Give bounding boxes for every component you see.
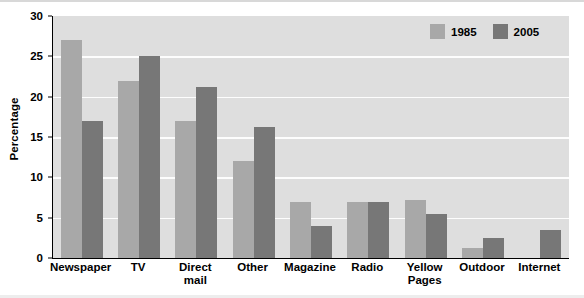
y-axis-tick-label: 5 (37, 212, 43, 224)
bar-group (405, 16, 447, 258)
bar-1985-tv (118, 81, 139, 258)
bar-1985-yellow-pages (405, 200, 426, 258)
x-axis-label-other: Other (237, 261, 268, 274)
y-axis-title-text: Percentage (7, 97, 19, 160)
bar-2005-internet (540, 230, 561, 258)
bar-chart-figure: Percentage 051015202530 NewspaperTVDirec… (0, 0, 584, 298)
bar-1985-direct-mail (175, 121, 196, 258)
bar-2005-radio (368, 202, 389, 258)
x-axis-label-yellow-pages: Yellow Pages (407, 261, 443, 287)
bar-2005-yellow-pages (426, 214, 447, 258)
bar-group (61, 16, 103, 258)
legend-label-1985: 1985 (451, 26, 477, 38)
legend: 19852005 (430, 24, 539, 39)
y-axis-tick-label: 15 (30, 131, 43, 143)
bar-1985-other (233, 161, 254, 258)
legend-swatch-1985 (430, 24, 445, 39)
x-axis-label-internet: Internet (518, 261, 560, 274)
bar-group (519, 16, 561, 258)
bar-group (347, 16, 389, 258)
bar-1985-outdoor (462, 248, 483, 258)
bar-1985-magazine (290, 202, 311, 258)
bar-group (290, 16, 332, 258)
x-axis-label-direct-mail: Direct mail (179, 261, 212, 287)
x-axis-label-magazine: Magazine (284, 261, 336, 274)
y-axis-tick-label: 10 (30, 171, 43, 183)
legend-entry-2005: 2005 (493, 24, 540, 39)
x-axis-label-tv: TV (131, 261, 146, 274)
x-axis-label-outdoor: Outdoor (459, 261, 504, 274)
bar-1985-newspaper (61, 40, 82, 258)
legend-entry-1985: 1985 (430, 24, 477, 39)
bar-2005-other (254, 127, 275, 258)
bar-2005-newspaper (82, 121, 103, 258)
y-axis-title: Percentage (2, 0, 24, 258)
bar-2005-tv (139, 56, 160, 258)
scan-edge-top (0, 0, 584, 2)
bars-layer (53, 16, 569, 258)
bar-group (462, 16, 504, 258)
y-axis-tick-labels: 051015202530 (24, 0, 48, 298)
x-axis-label-radio: Radio (351, 261, 383, 274)
bar-group (175, 16, 217, 258)
bar-2005-outdoor (483, 238, 504, 258)
legend-swatch-2005 (493, 24, 508, 39)
bar-1985-radio (347, 202, 368, 258)
y-axis-tick-label: 25 (30, 50, 43, 62)
x-axis-label-newspaper: Newspaper (50, 261, 111, 274)
x-axis-tick-labels: NewspaperTVDirect mailOtherMagazineRadio… (52, 261, 568, 298)
bar-group (233, 16, 275, 258)
bar-2005-direct-mail (196, 87, 217, 258)
y-axis-tick-label: 20 (30, 91, 43, 103)
legend-label-2005: 2005 (514, 26, 540, 38)
plot-area (52, 16, 569, 259)
bar-2005-magazine (311, 226, 332, 258)
bar-group (118, 16, 160, 258)
y-axis-tick-label: 0 (37, 252, 43, 264)
y-axis-tick-label: 30 (30, 10, 43, 22)
